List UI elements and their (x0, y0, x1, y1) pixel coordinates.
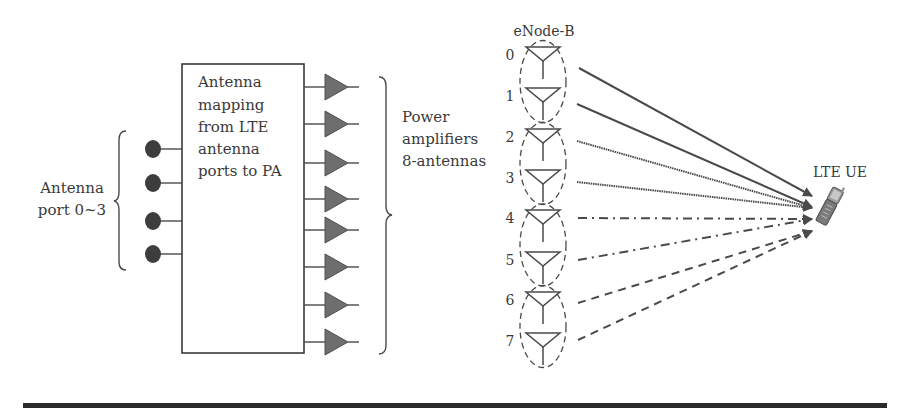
power-amplifier-4 (304, 217, 359, 243)
bottom-rule (23, 403, 887, 408)
power-amplifier-7 (304, 329, 359, 355)
radio-link-7-dashed (578, 231, 812, 340)
power-amplifier-5 (304, 254, 359, 280)
enodeb-antenna-3: 3 (506, 170, 560, 202)
enodeb-antenna-6: 6 (506, 292, 560, 324)
radio-link-5-dash-dot (578, 219, 812, 260)
antenna-index-4: 4 (506, 210, 515, 226)
pa-label-line-3: 8-antennas (402, 152, 486, 170)
antenna-port-1 (145, 174, 182, 192)
antenna-mapping-box: Antenna mapping from LTE antenna ports t… (182, 64, 304, 353)
enodeb-antenna-1: 1 (506, 88, 560, 120)
antenna-index-3: 3 (506, 170, 515, 186)
enodeb-antenna-5: 5 (506, 252, 560, 284)
power-amplifier-6 (304, 292, 359, 318)
radio-link-4-dash-dot (578, 218, 812, 219)
mapping-label-line-5: ports to PA (198, 162, 282, 180)
enodeb-antenna-2: 2 (506, 129, 560, 161)
enodeb-antenna-7: 7 (506, 333, 560, 365)
antenna-index-2: 2 (506, 129, 515, 145)
antenna-port-brace (114, 131, 126, 270)
mapping-label-line-1: Antenna (197, 73, 262, 91)
enodeb-title: eNode-B (513, 23, 574, 39)
pa-label-line-2: amplifiers (402, 130, 478, 148)
power-amplifier-2 (304, 150, 359, 176)
mapping-label-line-3: from LTE (198, 118, 268, 136)
lte-8-antenna-mapping-diagram: Antenna port 0~3 Antenna mapping from LT… (0, 0, 911, 409)
radio-link-3-dotted (577, 182, 812, 208)
antenna-port-0 (145, 140, 182, 158)
radio-link-0-solid (579, 68, 812, 196)
ue-label: LTE UE (813, 164, 867, 180)
power-amplifier-3 (304, 186, 359, 212)
power-amplifier-label: Power amplifiers 8-antennas (402, 108, 486, 170)
mapping-label-line-2: mapping (198, 96, 265, 114)
antenna-ports (145, 140, 182, 263)
antenna-index-7: 7 (506, 333, 515, 349)
antenna-port-label-line-2: port 0~3 (38, 201, 106, 219)
mapping-label-line-4: antenna (198, 140, 260, 158)
antenna-port-2 (145, 212, 182, 230)
antenna-index-1: 1 (506, 88, 515, 104)
antenna-port-label: Antenna port 0~3 (38, 179, 106, 219)
antenna-index-5: 5 (506, 252, 515, 268)
antenna-index-6: 6 (506, 292, 515, 308)
enodeb-antenna-array: 01234567 (506, 41, 566, 368)
enodeb-antenna-0: 0 (506, 47, 560, 79)
enodeb-antenna-4: 4 (506, 210, 560, 242)
power-amplifier-0 (304, 74, 359, 100)
phone-icon (815, 183, 845, 226)
pa-label-line-1: Power (402, 108, 450, 126)
antenna-index-0: 0 (506, 47, 515, 63)
antenna-port-3 (145, 245, 182, 263)
power-amplifier-1 (304, 111, 359, 137)
radio-link-2-dotted (577, 141, 812, 208)
power-amplifiers (304, 74, 359, 355)
radio-links (577, 68, 812, 340)
radio-link-1-solid (577, 104, 812, 207)
power-amplifier-brace (379, 77, 392, 354)
antenna-port-label-line-1: Antenna (39, 179, 104, 197)
radio-link-6-dashed (578, 231, 812, 303)
